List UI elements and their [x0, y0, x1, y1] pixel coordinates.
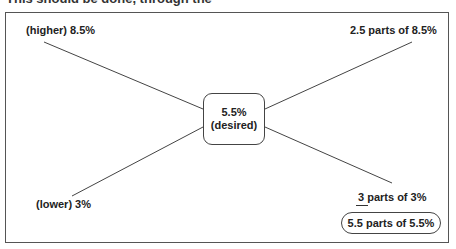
desired-rate-caption: (desired) [211, 119, 257, 132]
result-label: 5.5 parts of 5.5% [348, 217, 435, 229]
result-pill: 5.5 parts of 5.5% [341, 212, 441, 234]
underline-mark [356, 205, 368, 206]
higher-rate-label: (higher) 8.5% [26, 24, 95, 36]
desired-rate-box: 5.5% (desired) [203, 93, 265, 145]
lower-rate-label: (lower) 3% [36, 198, 91, 210]
desired-rate-value: 5.5% [221, 106, 246, 119]
higher-parts-label: 2.5 parts of 8.5% [350, 24, 437, 36]
lower-parts-label: 3 parts of 3% [358, 191, 426, 203]
